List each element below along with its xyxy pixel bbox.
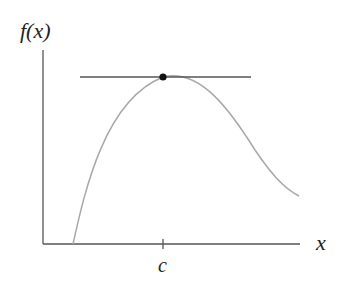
tick-label-c: c bbox=[158, 254, 167, 276]
x-axis-label: x bbox=[315, 230, 326, 255]
y-axis-label: f(x) bbox=[20, 18, 51, 43]
maximum-point bbox=[159, 73, 166, 80]
diagram-canvas: f(x) x c bbox=[0, 0, 337, 284]
function-curve bbox=[73, 76, 299, 244]
